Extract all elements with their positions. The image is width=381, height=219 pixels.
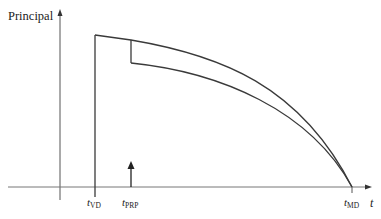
- tick-label-prp: tPRP: [122, 196, 138, 210]
- y-axis-arrow-icon: [58, 9, 63, 16]
- tick-label-md: tMD: [344, 196, 360, 210]
- prepayment-arrow-icon: [128, 161, 135, 169]
- principal-diagram: Principal t tVD tPRP tMD: [0, 0, 381, 219]
- y-axis-label: Principal: [8, 9, 54, 23]
- principal-curve-after-prepayment: [131, 63, 352, 187]
- x-axis-arrow-icon: [365, 185, 372, 190]
- x-axis-label: t: [370, 196, 374, 210]
- tick-label-vd: tVD: [87, 196, 101, 210]
- principal-curve-original: [95, 35, 352, 187]
